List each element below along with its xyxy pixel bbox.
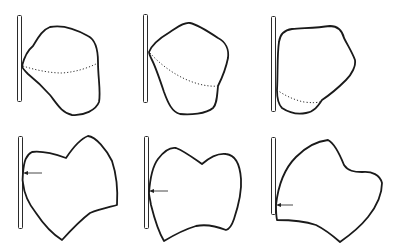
vertical-bar — [18, 16, 22, 102]
panel-drawing — [0, 0, 132, 125]
vertical-bar — [145, 137, 149, 229]
panel-drawing — [130, 0, 262, 125]
vertical-bar — [144, 15, 148, 103]
panel-drawing — [130, 125, 262, 250]
blob-outline — [277, 26, 355, 114]
contact-dotted-line — [277, 90, 322, 103]
panel-drawing — [262, 125, 397, 250]
blob-outline — [22, 26, 100, 115]
blob-outline — [23, 136, 118, 240]
panel-top-right — [262, 0, 394, 125]
panel-bottom-middle — [130, 125, 262, 250]
contact-dotted-line — [23, 63, 98, 73]
panel-top-left — [0, 0, 132, 125]
panel-bottom-left — [0, 125, 132, 250]
vertical-bar — [272, 138, 276, 215]
panel-top-middle — [130, 0, 262, 125]
panel-bottom-right — [262, 125, 394, 250]
blob-outline — [149, 148, 241, 241]
blob-outline — [276, 140, 382, 242]
vertical-bar — [272, 17, 276, 112]
panel-drawing — [0, 125, 132, 250]
blob-outline — [149, 23, 228, 114]
panel-drawing — [262, 0, 397, 125]
vertical-bar — [19, 137, 23, 229]
